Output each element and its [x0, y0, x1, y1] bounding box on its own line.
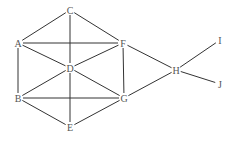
edge-D-B: [22, 70, 65, 95]
edge-B-E: [22, 100, 65, 124]
edge-D-F: [75, 45, 119, 66]
edge-H-J: [181, 72, 215, 83]
node-d: D: [66, 63, 73, 74]
edge-F-G: [123, 48, 124, 93]
node-g: G: [120, 93, 127, 104]
node-j: J: [218, 79, 222, 90]
node-i: I: [218, 35, 221, 46]
node-e: E: [67, 122, 73, 133]
node-b: B: [15, 93, 22, 104]
edge-C-A: [22, 13, 66, 41]
node-f: F: [120, 38, 126, 49]
edge-D-G: [74, 70, 119, 95]
node-c: C: [67, 5, 74, 16]
node-h: H: [172, 65, 179, 76]
edge-C-F: [74, 13, 119, 41]
edges-layer: [18, 13, 216, 125]
node-a: A: [14, 38, 22, 49]
edge-G-H: [128, 72, 171, 95]
edge-E-G: [74, 100, 119, 124]
edge-F-H: [127, 45, 171, 67]
graph-diagram: ABCDEFGHIJ: [0, 0, 232, 142]
edge-H-I: [180, 43, 216, 67]
edge-A-D: [23, 45, 66, 66]
